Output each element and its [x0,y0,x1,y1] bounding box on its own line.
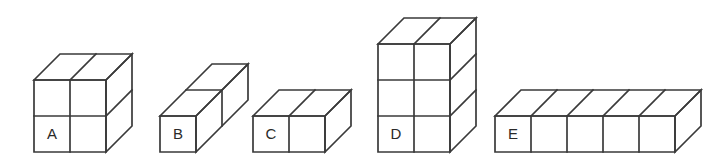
solid-c-label: C [266,125,277,142]
solid-e-label: E [508,125,518,142]
solid-e: E [495,90,701,152]
solid-a: A [34,54,132,152]
solid-a-label: A [47,125,57,142]
solid-d-label: D [391,125,402,142]
solid-d: D [378,18,476,152]
cube-solids-figure: ABCDE [0,0,725,165]
solid-b-label: B [173,125,183,142]
